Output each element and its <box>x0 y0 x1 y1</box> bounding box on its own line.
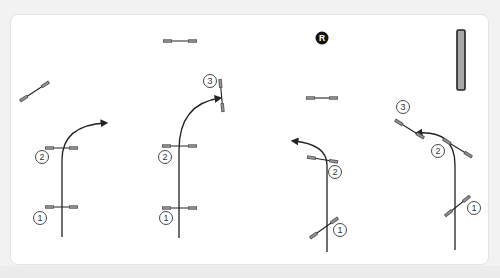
svg-text:R: R <box>319 33 325 43</box>
svg-text:1: 1 <box>163 213 168 223</box>
panel-2-path <box>179 98 220 238</box>
jump-number-1: 1 <box>34 212 47 225</box>
panel-3-jump-2 <box>307 157 338 162</box>
svg-text:3: 3 <box>400 102 405 112</box>
jump-number-2: 2 <box>159 151 172 164</box>
svg-text:2: 2 <box>435 146 440 156</box>
svg-text:2: 2 <box>39 152 44 162</box>
panel-4-jump-3 <box>395 120 424 138</box>
panel-4-jump-2 <box>443 139 472 157</box>
jump-number-1: 1 <box>334 224 347 237</box>
loose-jump-1 <box>20 82 49 101</box>
svg-text:3: 3 <box>207 76 212 86</box>
course-diagram: 1212312123 R <box>0 0 500 278</box>
jump-number-1: 1 <box>160 212 173 225</box>
jump-number-3: 3 <box>204 75 217 88</box>
svg-text:1: 1 <box>471 203 476 213</box>
svg-text:2: 2 <box>332 167 337 177</box>
labels-layer: 1212312123 <box>34 75 481 237</box>
jump-number-1: 1 <box>468 202 481 215</box>
jump-number-2: 2 <box>432 145 445 158</box>
wall-icon <box>457 30 465 90</box>
panel-1-path <box>62 123 106 237</box>
jump-number-3: 3 <box>397 101 410 114</box>
jumps-layer <box>20 41 472 238</box>
svg-text:1: 1 <box>37 213 42 223</box>
panel-4-jump-1 <box>445 196 470 216</box>
extras-layer: R <box>316 30 466 90</box>
r-marker-icon: R <box>316 32 329 45</box>
panel-2-jump-3 <box>220 79 223 112</box>
svg-text:1: 1 <box>337 225 342 235</box>
jump-number-2: 2 <box>329 166 342 179</box>
svg-text:2: 2 <box>162 152 167 162</box>
jump-number-2: 2 <box>36 151 49 164</box>
